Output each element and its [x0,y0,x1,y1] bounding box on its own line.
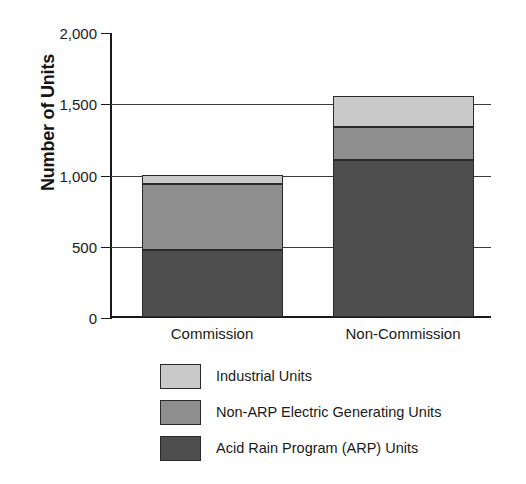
y-axis-title: Number of Units [38,3,59,243]
legend-item-acid-rain-program-units: Acid Rain Program (ARP) Units [160,430,490,466]
bar-segment-arp-commission [142,250,283,317]
stacked-bar-chart: Number of Units 2,000 1,500 1,000 500 0 [0,0,526,484]
y-tick-label: 1,000 [59,168,97,185]
y-tick-label: 2,000 [59,25,97,42]
x-category-label-commission: Commission [122,325,302,342]
bar-segment-industrial-commission [142,175,283,185]
legend-item-industrial-units: Industrial Units [160,358,490,394]
legend-label-industrial-units: Industrial Units [216,368,312,384]
legend-swatch-icon-industrial-units [160,364,201,389]
y-tick-label: 0 [89,310,97,327]
tick-mark [101,318,111,319]
legend-label-acid-rain-program-units: Acid Rain Program (ARP) Units [216,440,418,456]
legend-swatch-icon-non-arp-electric-generating-units [160,400,201,425]
bar-segment-nonarp-non-commission [333,127,474,160]
tick-mark [101,247,111,248]
plot-area: 2,000 1,500 1,000 500 0 [110,33,490,318]
y-tick-label: 500 [72,239,97,256]
legend-item-non-arp-electric-generating-units: Non-ARP Electric Generating Units [160,394,490,430]
tick-mark [101,176,111,177]
y-tick-label: 1,500 [59,96,97,113]
bar-segment-industrial-non-commission [333,96,474,127]
chart-legend: Industrial Units Non-ARP Electric Genera… [160,358,490,466]
legend-swatch-icon-acid-rain-program-units [160,436,201,461]
legend-label-non-arp-electric-generating-units: Non-ARP Electric Generating Units [216,404,441,420]
bar-segment-arp-non-commission [333,160,474,317]
x-category-label-non-commission: Non-Commission [303,325,503,342]
tick-mark [101,33,111,34]
tick-mark [101,104,111,105]
bar-segment-nonarp-commission [142,184,283,250]
